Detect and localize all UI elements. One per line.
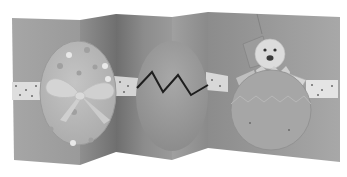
cracked-egg <box>136 41 208 151</box>
easter-card-photo <box>0 0 347 177</box>
